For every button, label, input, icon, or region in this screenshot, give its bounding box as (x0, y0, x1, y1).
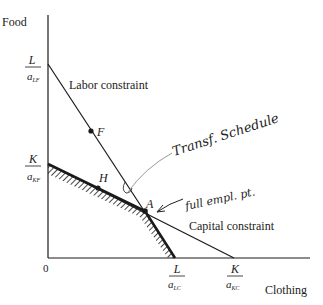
origin-label: 0 (43, 262, 49, 274)
label-H: H (98, 171, 109, 185)
hatched-frontier-band (48, 164, 175, 258)
svg-text:aKC: aKC (226, 278, 241, 291)
point-F (88, 128, 93, 133)
capital-constraint-label: Capital constraint (189, 219, 275, 233)
svg-text:aKF: aKF (27, 170, 41, 183)
x-axis-label: Clothing (265, 283, 307, 297)
transformation-pointer-curve (128, 153, 172, 192)
label-A: A (145, 197, 154, 211)
svg-text:K: K (230, 262, 240, 276)
point-H (95, 185, 100, 190)
full-employment-arrow (157, 199, 183, 212)
svg-text:aLF: aLF (27, 70, 40, 83)
y-axis-label: Food (2, 15, 27, 29)
x-intercept-labor: L aLC (168, 262, 185, 291)
x-intercept-capital: K aKC (226, 262, 243, 291)
arrow-head-icon (157, 205, 165, 212)
label-F: F (96, 125, 105, 139)
y-intercept-capital: K aKF (25, 152, 41, 183)
check-mark (123, 182, 132, 193)
transformation-annotation: Transf. Schedule (170, 110, 281, 159)
ppf-diagram: F H A Food Clothing 0 L aLF K aKF L aLC … (0, 0, 323, 305)
labor-constraint-label: Labor constraint (69, 78, 149, 92)
svg-text:L: L (173, 262, 181, 276)
svg-text:L: L (28, 53, 36, 67)
y-intercept-labor: L aLF (25, 53, 41, 83)
svg-text:K: K (28, 152, 38, 166)
full-employment-annotation: full empl. pt. (183, 185, 256, 213)
svg-text:aLC: aLC (168, 278, 182, 291)
